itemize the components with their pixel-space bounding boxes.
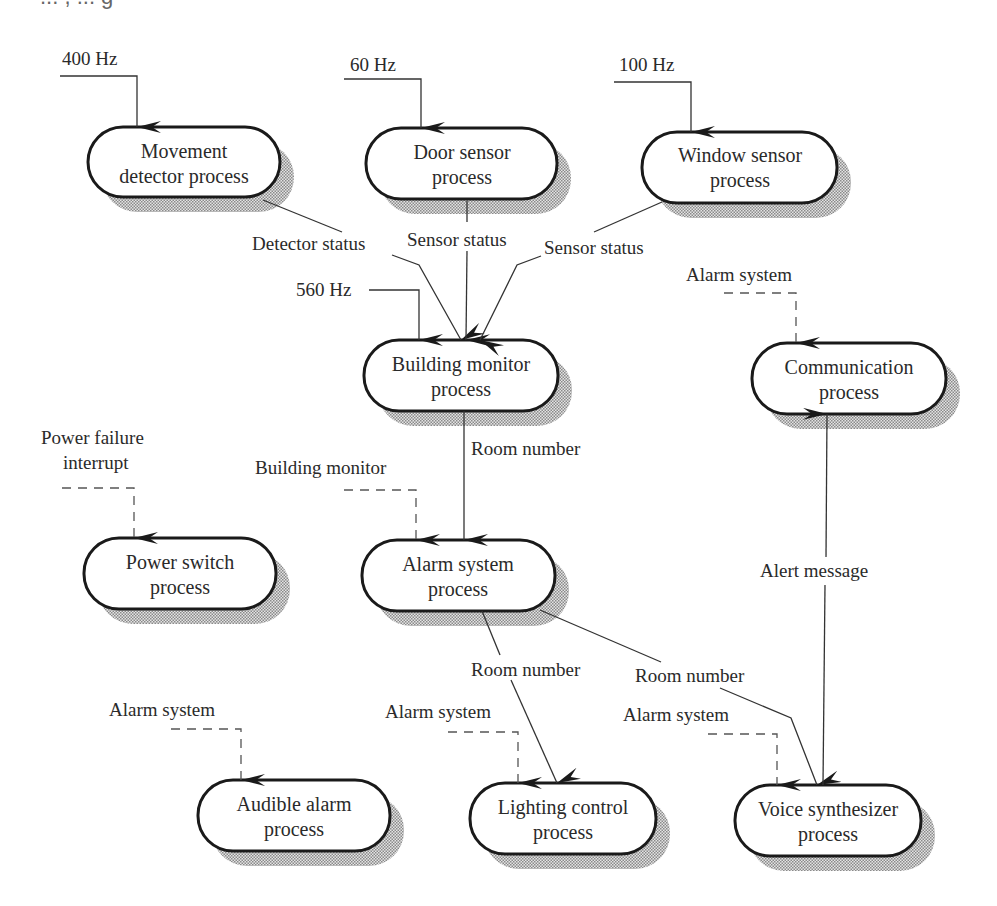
node-border: [470, 783, 656, 854]
flow-window-sensor-status: Sensor status: [480, 202, 662, 340]
node-label-line1: Lighting control: [498, 796, 629, 819]
flow-label: Detector status: [252, 233, 365, 254]
flow-lighting-room-number: Room number: [471, 611, 581, 783]
node-label-line1: Movement: [141, 140, 228, 162]
node-movement-detector-process[interactable]: Movement detector process: [88, 127, 294, 212]
stimulus-comm-alarm-system: Alarm system: [686, 264, 796, 343]
stimulus-60hz: 60 Hz: [344, 54, 421, 128]
stimulus-100hz: 100 Hz: [614, 54, 691, 132]
node-border: [84, 538, 276, 609]
stimulus-label-line1: Power failure: [41, 427, 144, 448]
node-label-line2: process: [264, 818, 324, 841]
node-label-line2: detector process: [119, 165, 249, 188]
node-voice-synthesizer-process[interactable]: Voice synthesizer process: [735, 785, 935, 871]
stimulus-building-monitor: Building monitor: [255, 457, 416, 540]
node-label-line2: process: [710, 169, 770, 192]
stimulus-label: Building monitor: [255, 457, 387, 478]
node-border: [364, 340, 558, 411]
node-border: [198, 780, 390, 851]
stimulus-label: Alarm system: [686, 264, 792, 285]
stimulus-arrow-icon: [369, 290, 419, 340]
node-label-line1: Door sensor: [413, 141, 511, 163]
node-audible-alarm-process[interactable]: Audible alarm process: [198, 780, 404, 866]
flow-label: Sensor status: [544, 237, 644, 258]
stimulus-arrow-icon: [344, 490, 416, 540]
stimulus-arrow-icon: [171, 729, 241, 780]
node-alarm-system-process[interactable]: Alarm system process: [362, 540, 569, 626]
stimulus-label: Alarm system: [623, 704, 729, 725]
stimulus-400hz: 400 Hz: [60, 48, 137, 127]
node-label-line2: process: [798, 823, 858, 846]
stimulus-label: 60 Hz: [350, 54, 396, 75]
node-label-line1: Power switch: [126, 551, 234, 573]
flow-label: Room number: [471, 438, 581, 459]
node-border: [362, 540, 555, 611]
node-label-line2: process: [431, 378, 491, 401]
stimulus-arrow-icon: [614, 82, 691, 132]
stimulus-label: 400 Hz: [62, 48, 117, 69]
node-communication-process[interactable]: Communication process: [752, 343, 960, 429]
node-label-line1: Audible alarm: [237, 793, 352, 815]
node-border: [366, 128, 557, 199]
node-door-sensor-process[interactable]: Door sensor process: [366, 128, 571, 214]
node-label-line2: process: [819, 381, 879, 404]
flow-arrow-icon: [392, 255, 461, 340]
node-border: [642, 132, 837, 203]
flow-line: [263, 200, 342, 232]
stimulus-voice-alarm-system: Alarm system: [623, 704, 777, 785]
stimulus-arrow-icon: [724, 293, 796, 343]
stimulus-label-line2: interrupt: [63, 452, 129, 473]
node-label-line2: process: [150, 576, 210, 599]
stimulus-label: Alarm system: [385, 701, 491, 722]
flow-arrow-icon: [720, 688, 817, 785]
stimulus-label: 100 Hz: [619, 54, 674, 75]
node-label-line1: Voice synthesizer: [758, 798, 898, 821]
node-label-line2: process: [428, 578, 488, 601]
stimulus-arrow-icon: [708, 734, 777, 785]
flow-arrow-icon: [826, 414, 827, 557]
flow-line: [823, 585, 825, 785]
node-border: [735, 785, 921, 856]
stimulus-label: Alarm system: [109, 699, 215, 720]
node-building-monitor-process[interactable]: Building monitor process: [364, 340, 572, 426]
node-label-line1: Communication: [785, 356, 914, 378]
stimulus-power-failure: Power failure interrupt: [41, 427, 144, 538]
flow-alert-message: Alert message: [760, 414, 868, 785]
flow-arrow-icon: [480, 256, 541, 340]
clipped-caption: ... , ... g: [40, 0, 113, 9]
stimulus-lighting-alarm-system: Alarm system: [385, 701, 518, 783]
flow-voice-room-number: Room number: [540, 610, 817, 785]
node-label-line2: process: [533, 821, 593, 844]
stimulus-arrow-icon: [60, 76, 137, 127]
stimulus-arrow-icon: [344, 79, 421, 128]
node-border: [752, 343, 946, 414]
node-lighting-control-process[interactable]: Lighting control process: [470, 783, 670, 869]
node-window-sensor-process[interactable]: Window sensor process: [642, 132, 851, 218]
flow-label: Room number: [471, 659, 581, 680]
stimulus-arrow-icon: [448, 732, 518, 783]
flow-label: Sensor status: [407, 229, 507, 250]
stimulus-audible-alarm-system: Alarm system: [109, 699, 241, 780]
node-power-switch-process[interactable]: Power switch process: [84, 538, 290, 624]
stimulus-560hz: 560 Hz: [296, 279, 419, 340]
node-label-line2: process: [432, 166, 492, 189]
stimulus-arrow-icon: [62, 488, 134, 538]
flow-label: Room number: [635, 665, 745, 686]
flow-line: [594, 202, 662, 232]
flow-detector-status: Detector status: [252, 200, 461, 340]
flow-arrow-icon: [466, 251, 467, 340]
process-diagram: ... , ... g Movement detector process Do…: [0, 0, 997, 906]
flow-line: [540, 610, 661, 662]
flow-building-room-number: Room number: [464, 411, 581, 540]
node-label-line1: Alarm system: [402, 553, 514, 576]
flow-label: Alert message: [760, 560, 868, 581]
node-label-line1: Building monitor: [392, 353, 531, 376]
node-label-line1: Window sensor: [678, 144, 803, 166]
stimulus-label: 560 Hz: [296, 279, 351, 300]
